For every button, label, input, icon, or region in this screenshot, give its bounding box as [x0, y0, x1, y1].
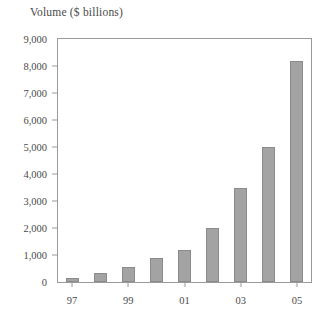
y-axis-tickmark: [52, 174, 57, 175]
y-axis-tick-label: 3,000: [23, 196, 47, 207]
bar: [290, 61, 303, 282]
y-axis-tickmark: [52, 201, 57, 202]
y-axis-tick-label: 8,000: [23, 61, 47, 72]
bar: [178, 250, 191, 282]
bar: [122, 267, 135, 282]
x-axis-tick-label: 03: [235, 295, 246, 306]
y-axis-tickmark: [52, 147, 57, 148]
y-axis-tick-label: 5,000: [23, 142, 47, 153]
chart-title: Volume ($ billions): [30, 6, 123, 18]
y-axis-tickmark: [52, 120, 57, 121]
y-axis-tick-label: 9,000: [23, 34, 47, 45]
y-axis-tickmark: [52, 255, 57, 256]
y-axis-tick-label: 7,000: [23, 88, 47, 99]
x-axis-tickmark: [128, 283, 129, 287]
x-axis-tickmark: [296, 283, 297, 287]
bar: [206, 228, 219, 282]
y-axis-tick-label: 4,000: [23, 169, 47, 180]
x-axis: 9799010305: [57, 283, 312, 317]
bar: [66, 278, 79, 282]
y-axis: 01,0002,0003,0004,0005,0006,0007,0008,00…: [0, 38, 57, 283]
x-axis-tickmark: [184, 283, 185, 287]
bar: [234, 188, 247, 283]
bar: [262, 147, 275, 282]
x-axis-tick-label: 05: [292, 295, 303, 306]
bar-chart: Volume ($ billions) 01,0002,0003,0004,00…: [0, 0, 322, 317]
y-axis-tickmark: [52, 93, 57, 94]
y-axis-tick-label: 2,000: [23, 223, 47, 234]
bar: [94, 273, 107, 282]
bar: [150, 258, 163, 282]
x-axis-tick-label: 97: [67, 295, 78, 306]
bar-series: [58, 39, 311, 282]
x-axis-tick-label: 01: [179, 295, 190, 306]
x-axis-tick-label: 99: [123, 295, 134, 306]
x-axis-tickmark: [240, 283, 241, 287]
y-axis-tickmark: [52, 66, 57, 67]
x-axis-tickmark: [72, 283, 73, 287]
y-axis-tick-label: 6,000: [23, 115, 47, 126]
y-axis-tickmark: [52, 228, 57, 229]
y-axis-tick-label: 0: [42, 277, 47, 288]
y-axis-tick-label: 1,000: [23, 250, 47, 261]
